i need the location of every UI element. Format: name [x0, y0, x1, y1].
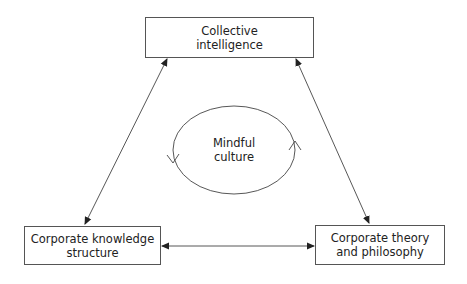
node-corporate-theory-philosophy: Corporate theory and philosophy — [315, 225, 445, 265]
node-label-line1: Corporate knowledge — [31, 232, 154, 246]
node-label-line2: and philosophy — [336, 245, 424, 259]
cycle-label-line1: Mindful — [204, 136, 264, 150]
node-label-line2: structure — [66, 246, 118, 260]
node-label-line2: intelligence — [196, 38, 263, 52]
edge-top-to-bottom-right — [296, 59, 369, 223]
cycle-label: Mindful culture — [204, 136, 264, 164]
node-corporate-knowledge-structure: Corporate knowledge structure — [24, 226, 161, 265]
node-collective-intelligence: Collective intelligence — [145, 17, 314, 58]
node-label-line1: Collective — [201, 24, 257, 38]
edge-top-to-bottom-left — [85, 59, 167, 224]
cycle-label-line2: culture — [204, 150, 264, 164]
node-label-line1: Corporate theory — [331, 231, 430, 245]
